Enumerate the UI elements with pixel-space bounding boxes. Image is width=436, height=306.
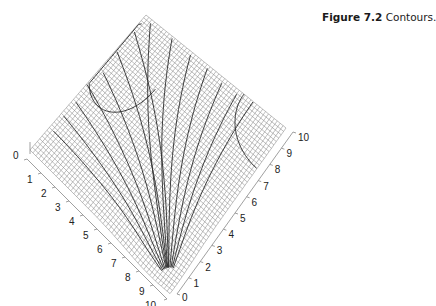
figure-label: Figure 7.2 <box>322 11 382 23</box>
left-axis-tick-label: 8 <box>125 272 131 283</box>
figure-caption: Figure 7.2 Contours. <box>322 11 436 23</box>
right-axis-tick-label: 1 <box>194 278 200 289</box>
left-axis-tick-label: 5 <box>83 230 89 241</box>
right-axis-tick-label: 8 <box>275 164 281 175</box>
right-axis-tick-label: 10 <box>298 132 310 143</box>
figure-caption-text: Contours. <box>386 11 436 23</box>
left-axis-tick-label: 0 <box>13 150 19 161</box>
right-axis-tick-label: 0 <box>182 292 188 303</box>
right-axis-tick-label: 3 <box>217 245 223 256</box>
right-axis-tick-label: 9 <box>286 148 292 159</box>
right-axis-tick-label: 4 <box>228 229 234 240</box>
right-axis-tick-label: 6 <box>252 197 258 208</box>
left-axis-tick-label: 9 <box>139 286 145 297</box>
right-axis-tick-label: 7 <box>263 181 269 192</box>
right-axis-tick-label: 2 <box>205 262 211 273</box>
left-axis-tick-label: 1 <box>27 174 33 185</box>
right-axis-tick-label: 5 <box>240 213 246 224</box>
left-axis-tick-label: 4 <box>69 216 75 227</box>
left-axis-tick-label: 7 <box>111 258 117 269</box>
wireframe-mesh <box>30 15 286 294</box>
left-axis-tick-label: 2 <box>41 188 47 199</box>
left-axis-tick-label: 3 <box>55 202 61 213</box>
left-axis-tick-label: 10 <box>145 300 157 306</box>
left-axis-tick-label: 6 <box>97 244 103 255</box>
